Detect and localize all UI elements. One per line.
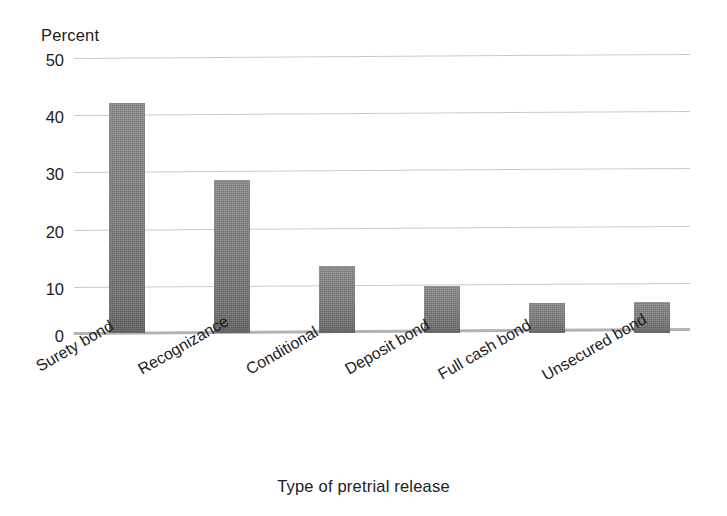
bars-layer — [74, 52, 690, 333]
y-axis-tick-labels: 50 40 30 20 10 0 — [20, 52, 64, 338]
x-axis-category-labels: Surety bond Recognizance Conditional Dep… — [0, 338, 727, 468]
x-axis-title: Type of pretrial release — [0, 477, 727, 496]
y-tick-label: 30 — [20, 166, 64, 183]
bar-recognizance — [214, 180, 250, 333]
y-tick-label: 20 — [20, 224, 64, 241]
y-axis-title: Percent — [41, 26, 99, 45]
bar-conditional — [319, 266, 355, 333]
y-tick-label: 10 — [20, 281, 64, 298]
y-tick-label: 50 — [20, 52, 64, 69]
bar-surety-bond — [109, 103, 145, 333]
bar-chart: Percent 50 40 30 20 10 0 Surety bond Rec… — [0, 0, 727, 516]
y-tick-label: 40 — [20, 109, 64, 126]
bar-full-cash-bond — [529, 303, 565, 333]
